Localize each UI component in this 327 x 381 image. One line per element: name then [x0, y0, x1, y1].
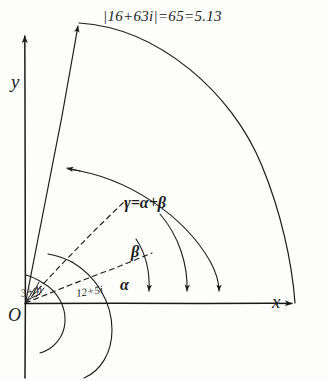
arc-modulus-5-upper: [26, 275, 43, 283]
arc-modulus-5: [40, 283, 65, 353]
arc-modulus-13: [72, 262, 112, 378]
label-angle-gamma: γ=α+β: [124, 195, 166, 211]
arc-gamma: [68, 169, 219, 291]
y-axis: [25, 36, 26, 378]
x-axis-label: x: [272, 292, 280, 311]
complex-plane-diagram: |16+63i|=65=5.13 y x O 3+4i 12+5i α β γ=…: [0, 0, 327, 381]
arc-modulus-13-upper: [48, 254, 72, 262]
arc-modulus-65: [79, 23, 295, 303]
label-angle-alpha: α: [120, 277, 129, 293]
modulus-annotation: |16+63i|=65=5.13: [103, 9, 222, 24]
label-angle-beta: β: [131, 244, 139, 260]
origin-label: O: [8, 306, 21, 324]
y-axis-label: y: [11, 72, 19, 91]
diagram-canvas: [0, 0, 327, 381]
